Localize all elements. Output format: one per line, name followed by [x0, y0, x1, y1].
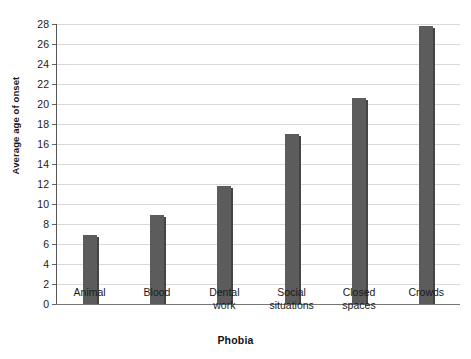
y-axis-tick: [52, 124, 56, 125]
y-axis-tick: [52, 64, 56, 65]
gridline: [57, 24, 460, 25]
gridline: [57, 184, 460, 185]
y-axis-tick: [52, 84, 56, 85]
y-axis-tick: [52, 224, 56, 225]
bar-shadow: [433, 28, 435, 304]
y-axis-tick: [52, 244, 56, 245]
gridline: [57, 124, 460, 125]
bar: [352, 98, 366, 304]
bar-shadow: [366, 100, 368, 304]
bar-chart: Average age of onset 0246810121416182022…: [0, 0, 471, 359]
gridline: [57, 224, 460, 225]
gridline: [57, 284, 460, 285]
y-axis-tick: [52, 284, 56, 285]
y-axis-tick: [52, 24, 56, 25]
y-axis-tick-label: 16: [37, 138, 49, 150]
bar: [285, 134, 299, 304]
x-axis-tick-label: Crowds: [381, 286, 471, 299]
y-axis-tick-label: 10: [37, 198, 49, 210]
y-axis-tick: [52, 204, 56, 205]
y-axis-title: Average age of onset: [10, 66, 21, 186]
y-axis-tick-label: 8: [43, 218, 49, 230]
y-axis-tick: [52, 164, 56, 165]
y-axis-tick-label: 18: [37, 118, 49, 130]
y-axis-tick: [52, 184, 56, 185]
y-axis-tick: [52, 264, 56, 265]
y-axis-tick-label: 28: [37, 18, 49, 30]
y-axis-tick-label: 22: [37, 78, 49, 90]
plot-area: 0246810121416182022242628: [56, 24, 460, 304]
y-axis-tick: [52, 44, 56, 45]
y-axis-tick-label: 12: [37, 178, 49, 190]
y-axis-tick-label: 20: [37, 98, 49, 110]
x-axis-tick-label-line: spaces: [314, 299, 404, 312]
x-axis-title: Phobia: [0, 334, 471, 346]
gridline: [57, 264, 460, 265]
y-axis-tick: [52, 144, 56, 145]
y-axis-tick-label: 4: [43, 258, 49, 270]
gridline: [57, 204, 460, 205]
gridline: [57, 84, 460, 85]
y-axis-tick-label: 14: [37, 158, 49, 170]
bar: [419, 26, 433, 304]
y-axis-tick-label: 6: [43, 238, 49, 250]
gridline: [57, 164, 460, 165]
x-axis-tick-label-line: Crowds: [381, 286, 471, 299]
gridline: [57, 244, 460, 245]
gridline: [57, 64, 460, 65]
y-axis-tick-label: 26: [37, 38, 49, 50]
y-axis-tick: [52, 104, 56, 105]
y-axis-tick: [52, 304, 56, 305]
bar-shadow: [299, 136, 301, 304]
gridline: [57, 144, 460, 145]
y-axis-tick-label: 0: [43, 298, 49, 310]
gridline: [57, 44, 460, 45]
gridline: [57, 104, 460, 105]
y-axis-tick-label: 24: [37, 58, 49, 70]
